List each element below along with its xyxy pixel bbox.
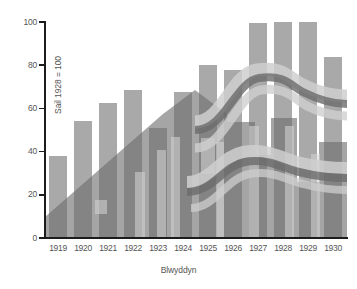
y-tick-0 bbox=[39, 237, 45, 239]
bar-series bbox=[45, 22, 347, 238]
bar-1919 bbox=[49, 156, 67, 238]
bar-1921 bbox=[99, 103, 117, 238]
bar-1927 bbox=[249, 23, 267, 238]
x-tick-label-1930: 1930 bbox=[313, 243, 353, 253]
y-tick-60 bbox=[39, 108, 45, 110]
bar-1928 bbox=[274, 22, 292, 238]
y-tick-label-100: 100 bbox=[0, 17, 37, 27]
y-axis-title-wrapper: Sail 1928 = 100 bbox=[47, 25, 61, 145]
bar-chart-figure: 0 20 40 60 80 100 Sail 1928 = 100 1919 1… bbox=[0, 0, 357, 289]
x-tick-labels: 1919 1920 1921 1922 1923 1924 1925 1926 … bbox=[45, 243, 347, 257]
bar-1925 bbox=[199, 65, 217, 238]
bar-1926 bbox=[224, 70, 242, 238]
bar-1929 bbox=[299, 22, 317, 238]
y-tick-40 bbox=[39, 151, 45, 153]
x-axis-line bbox=[44, 237, 348, 239]
y-axis-title: Sail 1928 = 100 bbox=[53, 56, 63, 114]
bar-1930 bbox=[324, 57, 342, 238]
y-tick-label-0: 0 bbox=[0, 233, 37, 243]
y-tick-80 bbox=[39, 64, 45, 66]
bar-1923 bbox=[149, 128, 167, 238]
bar-1924 bbox=[174, 92, 192, 238]
y-tick-label-80: 80 bbox=[0, 60, 37, 70]
y-tick-label-40: 40 bbox=[0, 146, 37, 156]
bar-1920 bbox=[74, 121, 92, 238]
x-axis-title: Blwyddyn bbox=[0, 265, 357, 275]
y-tick-label-20: 20 bbox=[0, 189, 37, 199]
y-tick-20 bbox=[39, 194, 45, 196]
y-tick-100 bbox=[39, 21, 45, 23]
y-axis-line bbox=[44, 21, 46, 239]
plot-area bbox=[45, 22, 347, 238]
bar-1922 bbox=[124, 90, 142, 238]
y-tick-label-60: 60 bbox=[0, 103, 37, 113]
